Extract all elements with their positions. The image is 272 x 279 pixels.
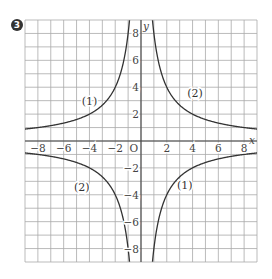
curve-1 [152,153,257,262]
svg-text:−2: −2 [124,162,139,174]
hyperbola-graph: −8−6−4−22468−8−6−4−22468Oyx (1)(2)(2)(1) [0,0,272,279]
svg-text:y: y [142,20,150,32]
curve-labels: (1)(2)(2)(1) [74,87,203,194]
svg-text:−2: −2 [107,142,122,154]
svg-text:2: 2 [163,142,170,154]
svg-text:(1): (1) [82,95,98,108]
svg-text:2: 2 [132,108,139,120]
svg-text:−8: −8 [30,142,45,154]
svg-text:−4: −4 [124,189,140,201]
svg-text:8: 8 [132,27,139,39]
svg-text:4: 4 [189,142,196,154]
svg-text:−6: −6 [56,142,72,154]
axes [25,20,257,262]
svg-text:6: 6 [132,54,139,66]
svg-text:4: 4 [132,81,139,93]
svg-text:(1): (1) [177,179,193,192]
curve-1 [25,20,130,129]
svg-text:(2): (2) [74,181,90,194]
svg-text:−8: −8 [124,243,139,255]
svg-text:O: O [129,142,138,154]
curve-2 [25,153,130,262]
svg-text:−6: −6 [124,216,140,228]
svg-text:(2): (2) [187,87,203,100]
svg-text:x: x [249,134,255,146]
curve-2 [152,20,257,129]
svg-text:6: 6 [215,142,222,154]
svg-text:−4: −4 [82,142,98,154]
svg-text:8: 8 [241,142,248,154]
